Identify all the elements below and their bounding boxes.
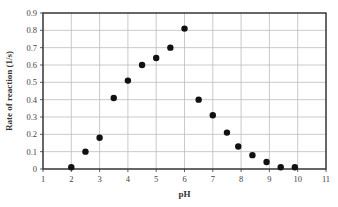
data-point <box>263 159 269 165</box>
x-tick-label: 11 <box>322 174 330 184</box>
data-points <box>68 25 298 170</box>
y-tick-label: 0.3 <box>26 112 37 122</box>
data-point <box>96 135 102 141</box>
x-axis-title: pH <box>178 189 190 199</box>
data-point <box>125 77 131 83</box>
x-tick-label: 7 <box>211 174 215 184</box>
scatter-chart: 1234567891011 00.10.20.30.40.50.60.70.80… <box>0 0 338 207</box>
x-axis-ticks: 1234567891011 <box>41 169 330 184</box>
y-tick-label: 0 <box>33 164 37 174</box>
data-point <box>249 152 255 158</box>
x-tick-label: 2 <box>69 174 73 184</box>
x-tick-label: 4 <box>126 174 131 184</box>
y-tick-label: 0.7 <box>26 43 37 53</box>
data-point <box>292 164 298 170</box>
y-tick-label: 0.6 <box>26 60 37 70</box>
gridlines <box>43 13 326 169</box>
data-point <box>82 148 88 154</box>
y-tick-label: 0.4 <box>26 95 37 105</box>
y-tick-label: 0.8 <box>26 25 37 35</box>
data-point <box>181 25 187 31</box>
x-tick-label: 3 <box>97 174 101 184</box>
data-point <box>224 129 230 135</box>
data-point <box>195 96 201 102</box>
x-tick-label: 10 <box>293 174 302 184</box>
x-tick-label: 1 <box>41 174 45 184</box>
data-point <box>153 55 159 61</box>
data-point <box>111 95 117 101</box>
y-tick-label: 0.1 <box>26 147 37 157</box>
x-tick-label: 8 <box>239 174 243 184</box>
data-point <box>167 44 173 50</box>
y-tick-label: 0.9 <box>26 8 37 18</box>
data-point <box>139 62 145 68</box>
y-axis-title: Rate of reaction (1/s) <box>4 51 14 131</box>
x-tick-label: 9 <box>267 174 271 184</box>
y-tick-label: 0.2 <box>26 129 37 139</box>
data-point <box>210 112 216 118</box>
x-tick-label: 6 <box>182 174 186 184</box>
y-tick-label: 0.5 <box>26 77 37 87</box>
data-point <box>235 143 241 149</box>
x-tick-label: 5 <box>154 174 158 184</box>
y-axis-ticks: 00.10.20.30.40.50.60.70.80.9 <box>26 8 43 174</box>
data-point <box>278 164 284 170</box>
data-point <box>68 164 74 170</box>
